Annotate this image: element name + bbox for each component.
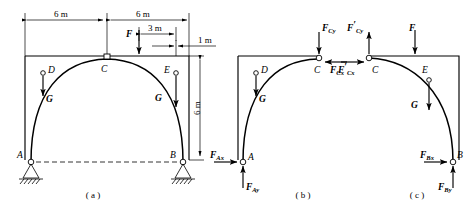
- hinge-C-c: [366, 55, 372, 61]
- point-B-label-c: B: [457, 150, 463, 160]
- panel-c: C F′Cy F′Cx F E G B: [337, 20, 463, 200]
- point-D-label-a: D: [47, 65, 55, 75]
- load-G-label-c: G: [411, 100, 418, 110]
- ground-hatch-A-a: [20, 179, 40, 184]
- point-D-marker-b: [254, 71, 259, 76]
- panel-a: 6 m 6 m 3 m F 1 m: [16, 9, 216, 200]
- point-A-label-b: A: [247, 152, 254, 162]
- point-D-marker-a: [41, 71, 46, 76]
- load-G-right-label-a: G: [155, 93, 162, 103]
- support-triangle-B-a: [175, 164, 191, 178]
- dim-height-label: 6 m: [192, 101, 202, 115]
- force-FBy-label: FBy: [437, 182, 452, 193]
- load-G-label-b: G: [259, 94, 266, 104]
- figure-svg: 6 m 6 m 3 m F 1 m: [0, 0, 473, 204]
- dimension-span: [25, 13, 189, 57]
- force-FCy-label: FCy: [321, 23, 336, 34]
- point-C-label-c: C: [372, 65, 379, 75]
- point-E-label-a: E: [163, 65, 170, 75]
- point-E-marker-c: [427, 78, 432, 83]
- force-FAx-label: FAx: [209, 150, 225, 161]
- panel-a-caption: ( a ): [86, 190, 101, 200]
- arch-curve-c: [369, 58, 453, 162]
- figure-root: 6 m 6 m 3 m F 1 m: [0, 0, 473, 204]
- hinge-A-b: [240, 159, 246, 165]
- dim-span-left-label: 6 m: [54, 9, 68, 19]
- point-E-marker-a: [174, 71, 179, 76]
- load-G-left-label-a: G: [46, 94, 53, 104]
- hinge-C-a: [104, 54, 110, 59]
- dim-3m-label: 3 m: [148, 23, 162, 33]
- panel-b: C FCy FCx D G A FAx: [209, 23, 347, 200]
- support-triangle-A-a: [23, 164, 39, 178]
- panel-b-caption: ( b ): [296, 190, 311, 200]
- dim-span-right-label: 6 m: [136, 9, 150, 19]
- point-B-label-a: B: [170, 150, 176, 160]
- load-F-label: F: [125, 29, 133, 39]
- force-FBx-label: FBx: [419, 150, 435, 161]
- hinge-C-b: [316, 55, 322, 61]
- dim-1m-label: 1 m: [198, 35, 212, 45]
- point-E-label-c: E: [421, 65, 428, 75]
- ground-hatch-B-a: [172, 179, 192, 184]
- hinge-B-c: [450, 159, 456, 165]
- point-C-label-b: C: [314, 65, 321, 75]
- point-C-label-a: C: [101, 64, 108, 74]
- point-A-label-a: A: [16, 150, 23, 160]
- force-FCx-prime-label: F′Cx: [337, 62, 355, 76]
- force-FAy-label: FAy: [245, 182, 259, 193]
- panel-c-caption: ( c ): [410, 190, 425, 200]
- point-D-label-b: D: [260, 65, 268, 75]
- force-FCy-prime-label: F′Cy: [346, 20, 363, 34]
